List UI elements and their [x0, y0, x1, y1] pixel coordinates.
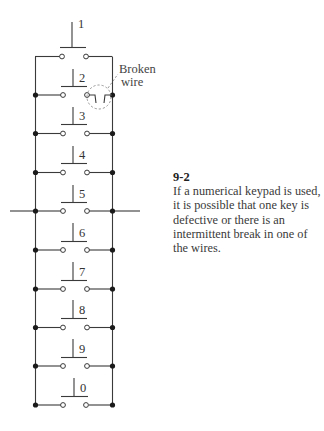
key-label-0: 0 [80, 381, 86, 395]
key-9: 9 [61, 339, 87, 358]
key-label-5: 5 [79, 187, 85, 201]
contact-6-right [85, 248, 90, 253]
node-7-left [33, 286, 38, 291]
node-3-right [110, 131, 115, 136]
node-6-right [110, 247, 115, 252]
contact-6-left [61, 248, 66, 253]
contact-1-left [60, 54, 65, 59]
key-label-2: 2 [79, 71, 85, 85]
key-label-7: 7 [79, 265, 85, 279]
broken-wire-end-left [89, 95, 96, 103]
key-1: 1 [60, 17, 86, 48]
node-8-right [110, 325, 115, 330]
node-6-left [33, 247, 38, 252]
node-8-left [33, 325, 38, 330]
key-label-8: 8 [79, 303, 85, 317]
key-label-4: 4 [79, 148, 86, 162]
node-7-right [110, 286, 115, 291]
key-label-1: 1 [78, 17, 84, 31]
key-label-3: 3 [79, 109, 85, 123]
key-3: 3 [61, 107, 87, 125]
node-5-right [110, 208, 115, 213]
key-0: 0 [61, 378, 88, 397]
key-4: 4 [61, 146, 87, 164]
contact-7-right [85, 287, 90, 292]
node-4-right [110, 170, 115, 175]
figure-caption: 9-2 If a numerical keypad is used, it is… [173, 170, 323, 255]
node-4-left [33, 170, 38, 175]
key-7: 7 [61, 262, 87, 281]
contact-5-left [61, 209, 66, 214]
node-9-right [110, 363, 115, 368]
key-6: 6 [61, 223, 87, 242]
contact-5-right [85, 209, 90, 214]
node-0-right [110, 402, 115, 407]
broken-wire-highlight [87, 85, 111, 109]
contact-7-left [61, 287, 66, 292]
contact-4-left [61, 170, 66, 175]
annotation-wire: wire [121, 75, 144, 89]
node-3-left [33, 131, 38, 136]
key-2: 2 [61, 69, 87, 87]
node-5-left [33, 208, 38, 213]
key-label-6: 6 [79, 226, 85, 240]
contact-4-right [85, 170, 90, 175]
contact-8-left [61, 325, 66, 330]
contact-0-right [84, 403, 89, 408]
annotation-broken: Broken [119, 62, 157, 76]
caption-text: If a numerical keypad is used, it is pos… [173, 184, 323, 255]
key-label-9: 9 [79, 342, 85, 356]
contact-1-right [84, 54, 89, 59]
figure-number: 9-2 [173, 170, 323, 184]
contact-0-left [61, 403, 66, 408]
node-9-left [33, 363, 38, 368]
contact-3-left [61, 131, 66, 136]
contact-9-left [61, 364, 66, 369]
key-5: 5 [61, 185, 87, 203]
node-0-left [33, 402, 38, 407]
contact-2-left [61, 93, 66, 98]
contact-8-right [85, 325, 90, 330]
contact-3-right [85, 131, 90, 136]
contact-9-right [85, 364, 90, 369]
key-8: 8 [61, 300, 87, 319]
node-2-left [33, 92, 38, 97]
